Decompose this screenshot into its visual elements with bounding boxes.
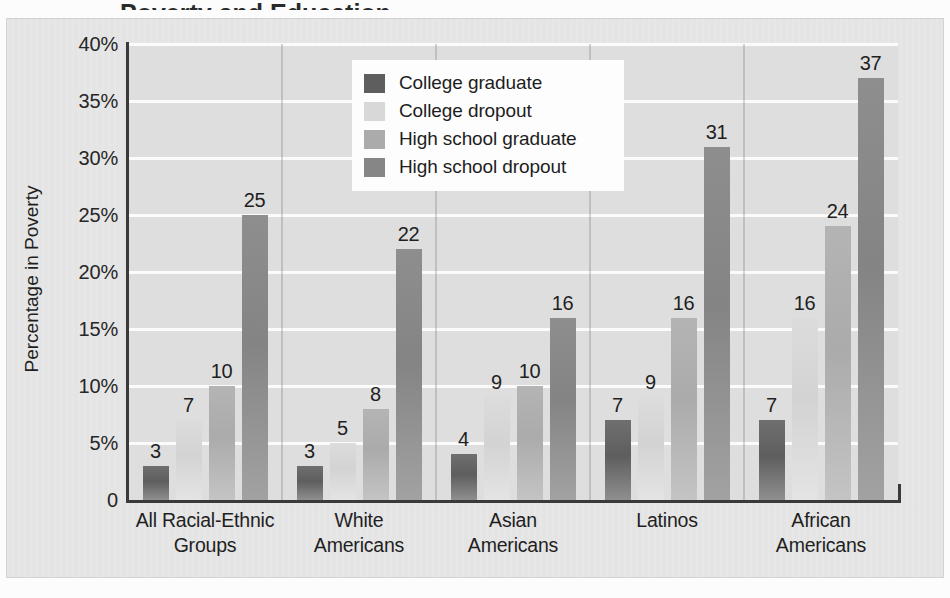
x-axis-label-line: Americans	[413, 533, 613, 558]
x-axis-label-line: African	[721, 508, 921, 533]
bar-value-label: 22	[381, 223, 437, 246]
group-separator	[743, 44, 745, 500]
legend-item-2[interactable]: High school graduate	[364, 125, 614, 153]
legend-item-label: High school dropout	[399, 156, 566, 178]
legend-swatch-icon	[364, 158, 385, 177]
gridline	[128, 43, 898, 46]
bar-high-school-dropout-0[interactable]	[242, 215, 268, 500]
legend-item-0[interactable]: College graduate	[364, 69, 614, 97]
legend-item-label: College dropout	[399, 100, 532, 122]
bar-college-dropout-1[interactable]	[330, 443, 356, 500]
x-axis-line	[126, 500, 901, 503]
y-axis-tick-label: 40%	[8, 33, 118, 56]
bar-college-dropout-3[interactable]	[638, 397, 664, 500]
legend-swatch-icon	[364, 74, 385, 93]
y-axis-tick-label: 0	[8, 489, 118, 512]
bar-value-label: 16	[535, 292, 591, 315]
bar-high-school-dropout-1[interactable]	[396, 249, 422, 500]
x-axis-end-tick	[898, 484, 901, 503]
x-axis-category-label-4: AfricanAmericans	[721, 508, 921, 558]
bar-college-graduate-3[interactable]	[605, 420, 631, 500]
y-axis-tick-labels: 40%35%30%25%20%15%10%5%0	[0, 0, 118, 598]
bar-college-graduate-2[interactable]	[451, 454, 477, 500]
group-separator	[281, 44, 283, 500]
x-axis-label-line: Americans	[721, 533, 921, 558]
page-bleed-text	[520, 520, 523, 532]
bar-high-school-dropout-3[interactable]	[704, 147, 730, 500]
bar-high-school-graduate-4[interactable]	[825, 226, 851, 500]
legend-swatch-icon	[364, 102, 385, 121]
bar-college-dropout-0[interactable]	[176, 420, 202, 500]
bar-college-graduate-0[interactable]	[143, 466, 169, 500]
bar-college-graduate-1[interactable]	[297, 466, 323, 500]
bar-value-label: 25	[227, 189, 283, 212]
bar-high-school-graduate-1[interactable]	[363, 409, 389, 500]
bar-college-dropout-2[interactable]	[484, 397, 510, 500]
chart-screenshot: Poverty and Education 371025358224910167…	[0, 0, 950, 598]
legend-item-1[interactable]: College dropout	[364, 97, 614, 125]
bar-college-graduate-4[interactable]	[759, 420, 785, 500]
bar-value-label: 37	[843, 52, 899, 75]
chart-legend: College graduateCollege dropoutHigh scho…	[352, 60, 624, 191]
bar-high-school-graduate-0[interactable]	[209, 386, 235, 500]
y-axis-top-tick	[126, 42, 129, 46]
legend-item-label: High school graduate	[399, 128, 577, 150]
bar-high-school-dropout-4[interactable]	[858, 78, 884, 500]
bar-high-school-dropout-2[interactable]	[550, 318, 576, 500]
legend-item-3[interactable]: High school dropout	[364, 153, 614, 181]
y-axis-title: Percentage in Poverty	[21, 79, 43, 479]
bar-high-school-graduate-3[interactable]	[671, 318, 697, 500]
figure-title-fragment: Poverty and Education	[120, 0, 540, 10]
y-axis-line	[126, 42, 129, 502]
bar-value-label: 31	[689, 121, 745, 144]
legend-swatch-icon	[364, 130, 385, 149]
bar-high-school-graduate-2[interactable]	[517, 386, 543, 500]
legend-item-label: College graduate	[399, 72, 542, 94]
bar-college-dropout-4[interactable]	[792, 318, 818, 500]
